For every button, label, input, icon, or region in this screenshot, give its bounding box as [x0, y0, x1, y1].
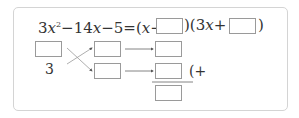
cross-arrow-up	[67, 48, 92, 64]
arrows-layer	[0, 0, 299, 118]
cross-arrow-down	[67, 48, 92, 71]
